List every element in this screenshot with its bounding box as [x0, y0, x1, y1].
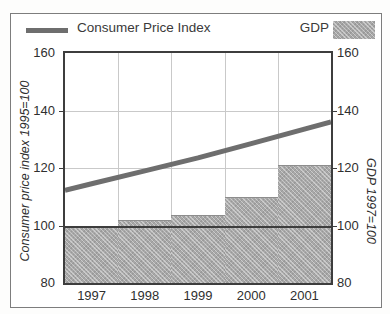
legend-item-gdp: GDP	[300, 20, 329, 35]
cropped-headline-text	[0, 0, 390, 9]
y-tick-right-160: 160	[337, 46, 377, 59]
y-tick-left-140: 140	[15, 104, 55, 117]
x-tick-1999: 1999	[168, 289, 228, 302]
y-axis-right-title: GDP 1997=100	[364, 101, 378, 301]
x-tick-2000: 2000	[221, 289, 281, 302]
cpi-line-series	[65, 53, 331, 283]
y-tick-left-100: 100	[15, 219, 55, 232]
chart-frame: Consumer Price Index GDP Consumer price …	[10, 13, 382, 308]
legend-line-swatch-icon	[26, 28, 68, 33]
legend-bar-swatch-icon	[333, 21, 375, 39]
y-tick-left-80: 80	[15, 276, 55, 289]
scanned-figure: Consumer Price Index GDP Consumer price …	[0, 0, 390, 314]
chart-legend: Consumer Price Index GDP	[11, 18, 383, 42]
x-tick-2001: 2001	[274, 289, 334, 302]
y-tick-left-120: 120	[15, 161, 55, 174]
y-tick-right-140: 140	[337, 104, 377, 117]
plot-area	[63, 51, 333, 285]
x-tick-1997: 1997	[62, 289, 122, 302]
y-tick-right-100: 100	[337, 219, 377, 232]
legend-item-consumer-price-index: Consumer Price Index	[77, 20, 211, 35]
y-tick-right-120: 120	[337, 161, 377, 174]
x-tick-1998: 1998	[115, 289, 175, 302]
y-tick-left-160: 160	[15, 46, 55, 59]
y-tick-right-80: 80	[337, 276, 377, 289]
